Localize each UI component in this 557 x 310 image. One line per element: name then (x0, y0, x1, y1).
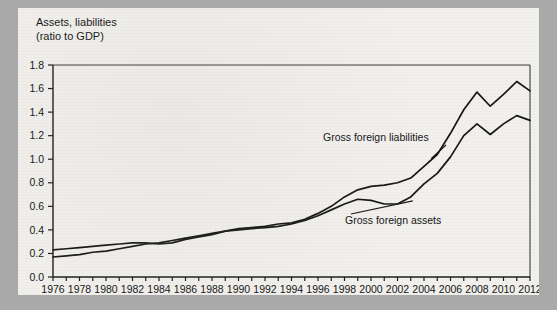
y-tick-label: 1.4 (29, 106, 44, 118)
x-tick-label: 1978 (68, 283, 92, 295)
y-tick-label: 1.6 (29, 82, 44, 94)
x-tick-label: 2012 (518, 283, 539, 295)
x-tick-label: 2004 (412, 283, 436, 295)
chart-title-line1: Assets, liabilities (36, 16, 117, 28)
y-axis-ticks: 0.00.20.40.60.81.01.21.41.61.8 (29, 59, 53, 283)
y-tick-label: 0.6 (29, 200, 44, 212)
x-tick-label: 2008 (465, 283, 489, 295)
annotation-liabilities: Gross foreign liabilities (323, 131, 446, 159)
line-chart: Assets, liabilities (ratio to GDP) 0.00.… (18, 8, 539, 295)
y-tick-label: 0.2 (29, 247, 44, 259)
series-line-assets (53, 116, 530, 257)
plot-frame (53, 65, 530, 277)
x-tick-label: 1984 (147, 283, 171, 295)
y-tick-label: 1.2 (29, 129, 44, 141)
x-tick-label: 1990 (227, 283, 251, 295)
x-axis-ticks: 1976197819801982198419861988199019921994… (41, 277, 539, 295)
x-tick-label: 1998 (333, 283, 357, 295)
x-tick-label: 2006 (439, 283, 463, 295)
x-tick-label: 1976 (41, 283, 65, 295)
y-tick-label: 1.0 (29, 153, 44, 165)
annotation-label-assets: Gross foreign assets (345, 214, 441, 226)
x-tick-label: 2000 (359, 283, 383, 295)
y-tick-label: 0.4 (29, 224, 44, 236)
x-tick-label: 2010 (492, 283, 516, 295)
figure-panel: Assets, liabilities (ratio to GDP) 0.00.… (18, 8, 539, 295)
chart-title-line2: (ratio to GDP) (36, 30, 104, 42)
x-tick-label: 1986 (174, 283, 198, 295)
x-tick-label: 1980 (94, 283, 118, 295)
x-tick-label: 1996 (306, 283, 330, 295)
x-tick-label: 2002 (386, 283, 410, 295)
y-tick-label: 0.0 (29, 271, 44, 283)
x-tick-label: 1982 (121, 283, 145, 295)
y-tick-label: 1.8 (29, 59, 44, 71)
plot-axes (53, 65, 530, 277)
series-group (53, 81, 530, 256)
x-tick-label: 1988 (200, 283, 224, 295)
x-tick-label: 1994 (280, 283, 304, 295)
annotation-assets: Gross foreign assets (345, 201, 441, 226)
y-tick-label: 0.8 (29, 176, 44, 188)
x-tick-label: 1992 (253, 283, 277, 295)
annotation-label-liabilities: Gross foreign liabilities (323, 131, 429, 143)
